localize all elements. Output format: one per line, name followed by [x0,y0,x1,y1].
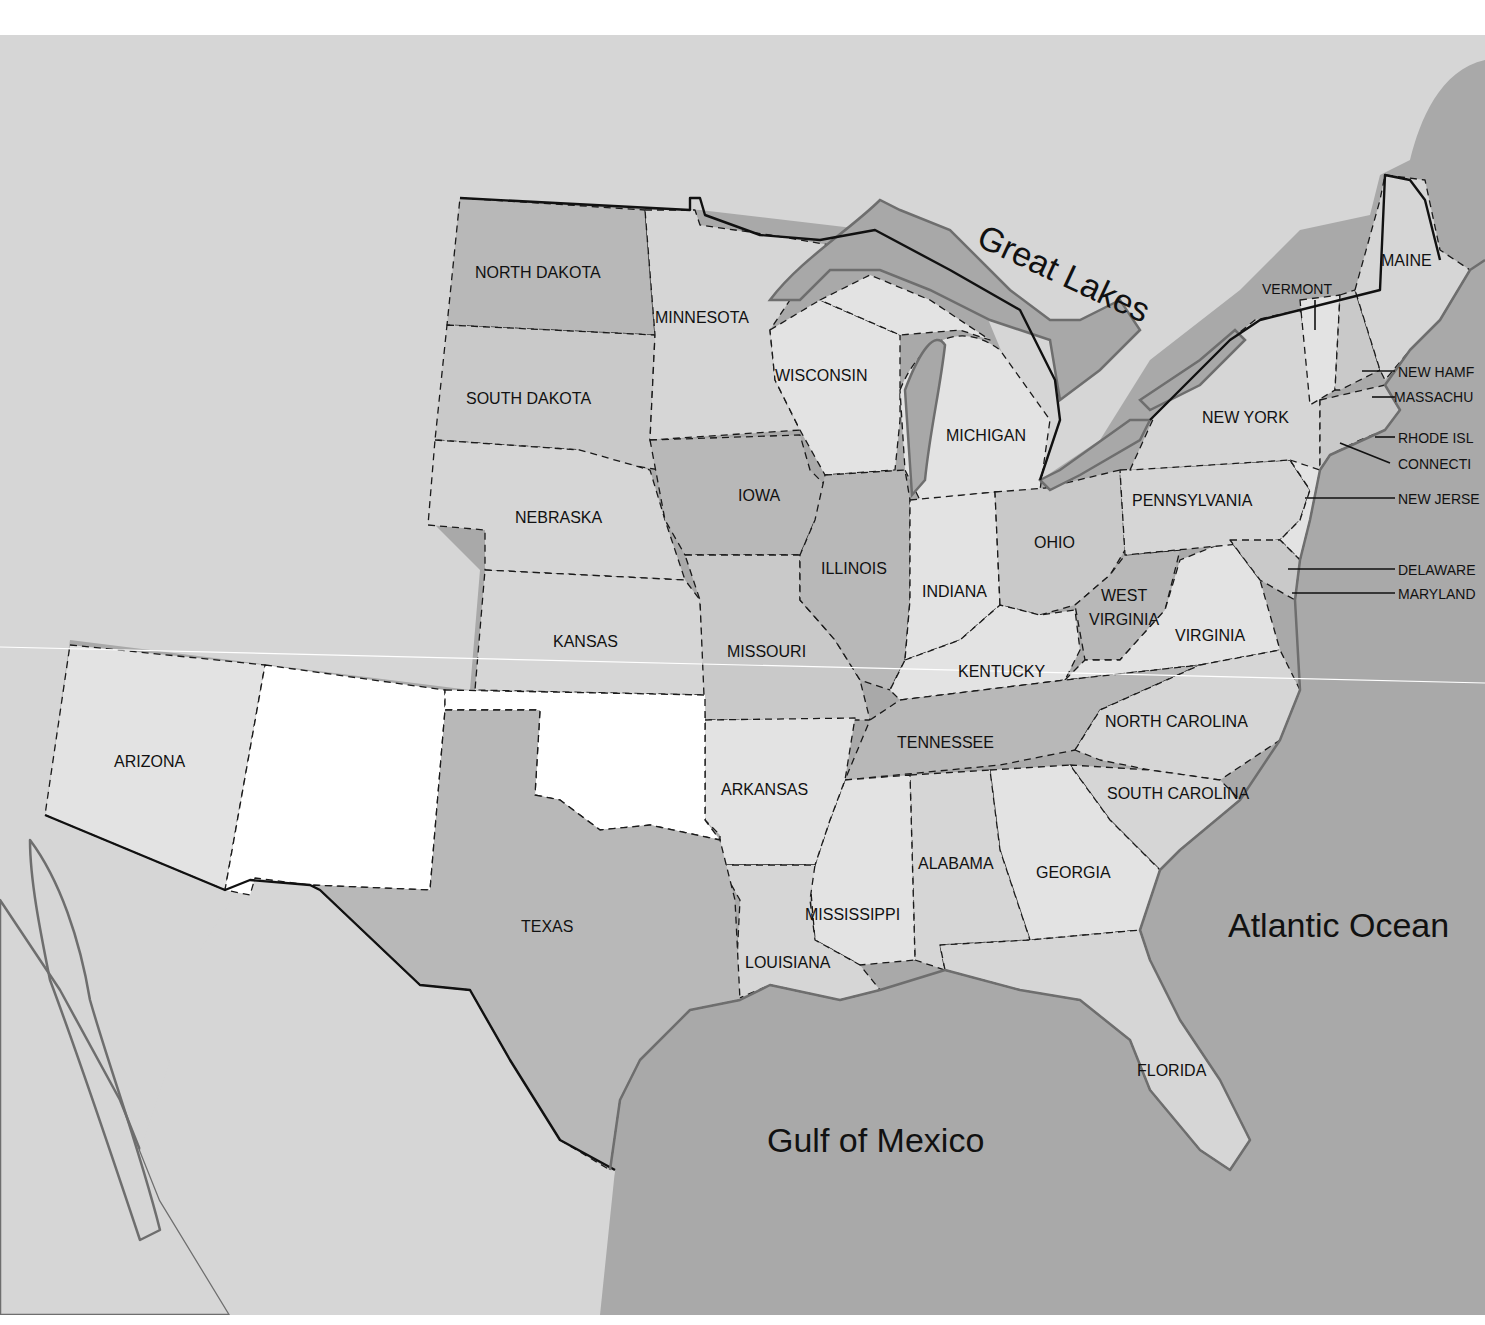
label-minnesota: MINNESOTA [655,309,749,326]
label-maine: MAINE [1381,252,1432,269]
label-michigan: MICHIGAN [946,427,1026,444]
label-west-virginia-line1: WEST [1101,587,1147,604]
us-eastern-states-map: Great Lakes Atlantic Ocean Gulf of Mexic… [0,35,1485,1315]
label-new-jersey: NEW JERSE [1398,491,1480,507]
label-north-carolina: NORTH CAROLINA [1105,713,1248,730]
label-tennessee: TENNESSEE [897,734,994,751]
label-vermont: VERMONT [1262,281,1332,297]
label-arkansas: ARKANSAS [721,781,808,798]
label-illinois: ILLINOIS [821,560,887,577]
label-maryland: MARYLAND [1398,586,1476,602]
label-arizona: ARIZONA [114,753,185,770]
label-north-dakota: NORTH DAKOTA [475,264,601,281]
label-new-york: NEW YORK [1202,409,1289,426]
label-kansas: KANSAS [553,633,618,650]
label-delaware: DELAWARE [1398,562,1476,578]
label-indiana: INDIANA [922,583,987,600]
label-georgia: GEORGIA [1036,864,1111,881]
label-missouri: MISSOURI [727,643,806,660]
label-west-virginia-line2: VIRGINIA [1089,611,1160,628]
label-louisiana: LOUISIANA [745,954,831,971]
label-wisconsin: WISCONSIN [775,367,867,384]
label-atlantic-ocean: Atlantic Ocean [1228,906,1449,944]
label-nebraska: NEBRASKA [515,509,602,526]
label-gulf-of-mexico: Gulf of Mexico [767,1121,984,1159]
label-massachusetts: MASSACHU [1394,389,1473,405]
top-margin [0,0,1485,35]
label-new-hampshire: NEW HAMF [1398,364,1474,380]
label-kentucky: KENTUCKY [958,663,1045,680]
label-texas: TEXAS [521,918,573,935]
label-iowa: IOWA [738,487,780,504]
label-alabama: ALABAMA [918,855,994,872]
bottom-margin [135,1315,1485,1325]
label-ohio: OHIO [1034,534,1075,551]
label-pennsylvania: PENNSYLVANIA [1132,492,1253,509]
label-virginia: VIRGINIA [1175,627,1246,644]
label-florida: FLORIDA [1137,1062,1207,1079]
label-mississippi: MISSISSIPPI [805,906,900,923]
label-connecticut: CONNECTI [1398,456,1471,472]
label-rhode-island: RHODE ISL [1398,430,1474,446]
label-south-dakota: SOUTH DAKOTA [466,390,591,407]
label-south-carolina: SOUTH CAROLINA [1107,785,1250,802]
